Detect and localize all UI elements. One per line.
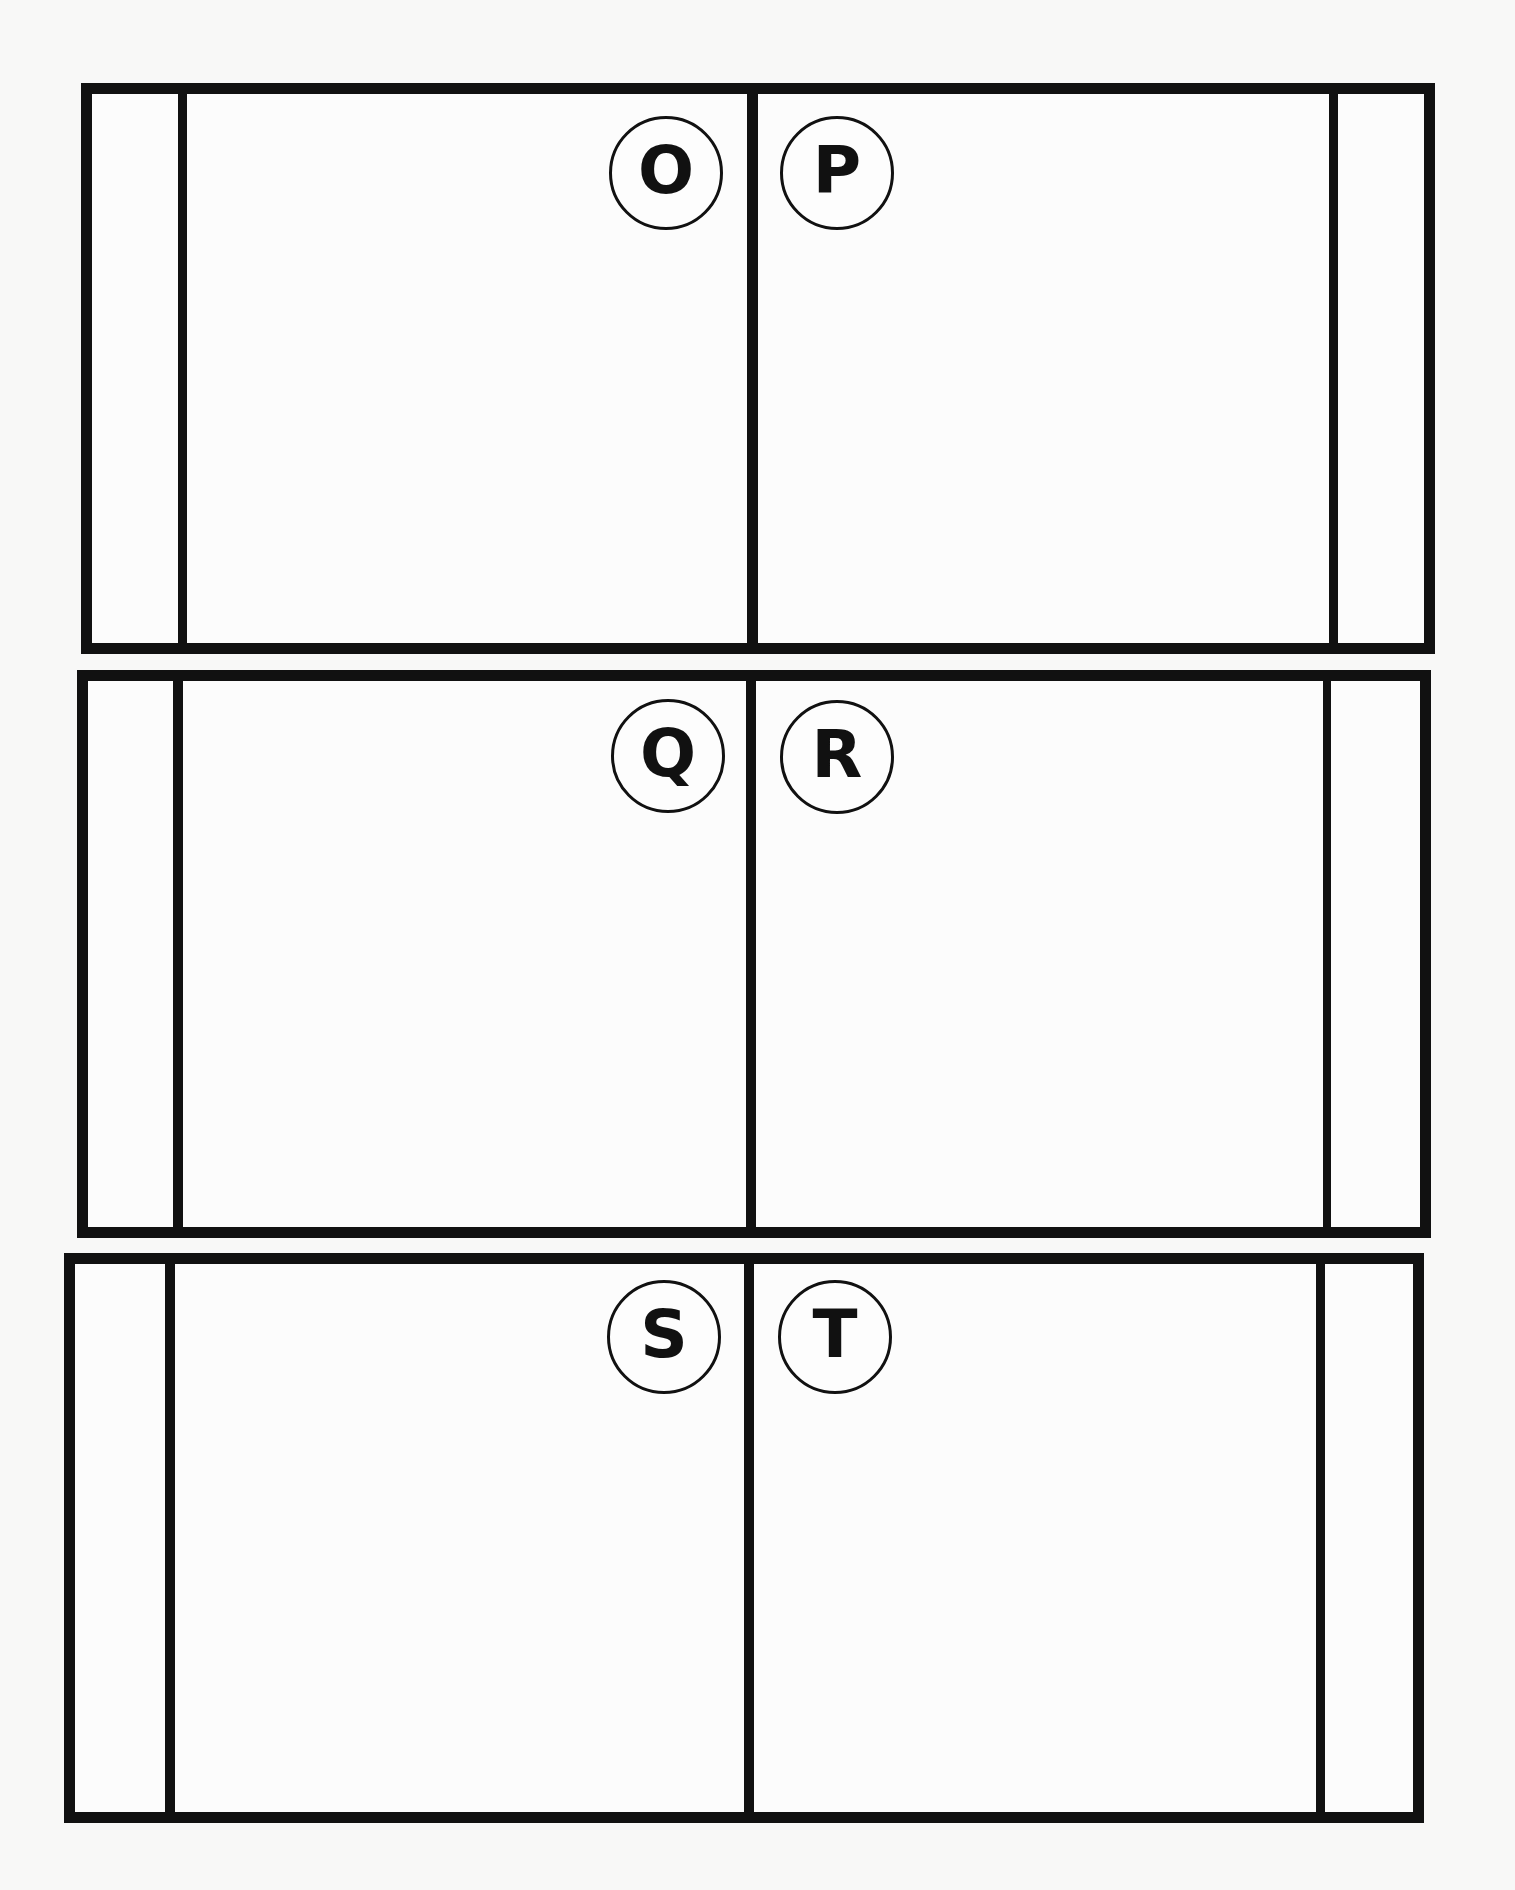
worksheet-page: O P Q R S T: [0, 0, 1515, 1890]
letter-badge-r: R: [780, 700, 894, 814]
letter-badge-q: Q: [611, 699, 725, 813]
letter-s: S: [640, 1302, 688, 1368]
letter-r: R: [812, 722, 863, 788]
letter-badge-s: S: [607, 1280, 721, 1394]
left-margin-strip: [92, 94, 178, 643]
letter-q: Q: [640, 721, 696, 787]
letter-badge-t: T: [778, 1280, 892, 1394]
left-margin-strip: [88, 681, 173, 1227]
right-margin-strip: [1325, 1264, 1413, 1812]
right-margin-strip: [1338, 94, 1424, 643]
center-divider: [746, 681, 756, 1227]
frame-st: S T: [64, 1253, 1424, 1823]
letter-p: P: [813, 138, 861, 204]
left-margin-divider: [178, 94, 187, 643]
right-margin-strip: [1331, 681, 1420, 1227]
letter-t: T: [812, 1302, 857, 1368]
letter-badge-p: P: [780, 116, 894, 230]
left-margin-divider: [165, 1264, 175, 1812]
letter-badge-o: O: [609, 116, 723, 230]
frame-op: O P: [81, 83, 1435, 654]
right-margin-divider: [1323, 681, 1331, 1227]
left-margin-strip: [75, 1264, 165, 1812]
left-margin-divider: [173, 681, 183, 1227]
right-margin-divider: [1316, 1264, 1325, 1812]
frame-qr: Q R: [77, 670, 1431, 1238]
letter-o: O: [638, 138, 694, 204]
center-divider: [747, 94, 758, 643]
center-divider: [744, 1264, 754, 1812]
right-margin-divider: [1329, 94, 1338, 643]
